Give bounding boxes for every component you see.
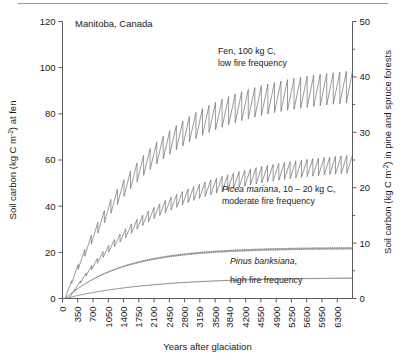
x-axis-tick-label: 2450 xyxy=(164,307,175,328)
series-pinus-banksiana-curve xyxy=(65,278,352,299)
x-axis-tick-label: 4200 xyxy=(240,307,251,328)
annotation-fen-line2: low fire frequency xyxy=(218,58,288,68)
annotation-picea-line2: moderate fire frequency xyxy=(222,196,316,206)
x-axis-tick-label: 4900 xyxy=(271,307,282,328)
x-axis-tick-label: 3150 xyxy=(194,307,205,328)
annotation-pinus-line1: Pinus banksiana, xyxy=(230,256,297,266)
left-axis-tick-label: 100 xyxy=(40,62,56,73)
x-axis-tick-label: 2800 xyxy=(179,307,190,328)
left-axis-label: Soil carbon (kg C m-2) at fen xyxy=(7,101,18,220)
x-axis-tick-label: 5250 xyxy=(286,307,297,328)
left-axis-tick-label: 60 xyxy=(45,154,56,165)
left-axis-tick-label: 80 xyxy=(45,108,56,119)
x-axis-tick-label: 350 xyxy=(72,307,83,323)
x-axis-tick-label: 1750 xyxy=(133,307,144,328)
left-axis-tick-label: 120 xyxy=(40,16,56,27)
right-axis-tick-label: 0 xyxy=(360,293,365,304)
x-axis-tick-label: 0 xyxy=(57,307,68,312)
right-axis-label: Soil carbon (kg C m-2) in pine and spruc… xyxy=(382,50,393,254)
right-axis-tick-label: 30 xyxy=(360,127,371,138)
x-axis-tick-label: 700 xyxy=(87,307,98,323)
chart-svg: 0204060801001200102030405003507001050140… xyxy=(0,0,402,358)
x-axis-tick-label: 1400 xyxy=(118,307,129,328)
x-axis-tick-label: 2100 xyxy=(148,307,159,328)
series-mid-dense-curve xyxy=(65,247,352,298)
left-axis-tick-label: 20 xyxy=(45,247,56,258)
x-axis-tick-label: 5600 xyxy=(301,307,312,328)
series-picea-mariana-curve xyxy=(69,155,352,298)
chart-title: Manitoba, Canada xyxy=(75,18,153,29)
x-axis-tick-label: 4550 xyxy=(255,307,266,328)
x-axis-label: Years after glaciation xyxy=(163,341,251,352)
right-axis-tick-label: 40 xyxy=(360,71,371,82)
right-axis-tick-label: 50 xyxy=(360,16,371,27)
left-axis-tick-label: 0 xyxy=(50,293,55,304)
right-axis-tick-label: 20 xyxy=(360,182,371,193)
x-axis-tick-label: 3840 xyxy=(224,307,235,328)
x-axis-tick-label: 1050 xyxy=(103,307,114,328)
left-axis-tick-label: 40 xyxy=(45,201,56,212)
annotation-pinus-line2: high fire frequency xyxy=(230,275,303,285)
right-axis-tick-label: 10 xyxy=(360,238,371,249)
x-axis-tick-label: 5950 xyxy=(316,307,327,328)
figure-soil-carbon-chart: 0204060801001200102030405003507001050140… xyxy=(0,0,402,358)
annotation-picea-line1: Picea mariana, 10 – 20 kg C, xyxy=(222,184,335,194)
annotation-fen-line1: Fen, 100 kg C, xyxy=(218,46,276,56)
x-axis-tick-label: 6300 xyxy=(332,307,343,328)
x-axis-tick-label: 3500 xyxy=(210,307,221,328)
